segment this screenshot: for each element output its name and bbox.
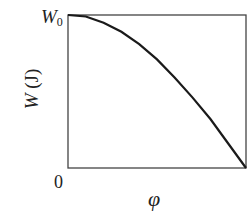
y-tick-w0: W0 [41, 6, 63, 30]
data-curve [68, 15, 246, 168]
x-tick-zero: 0 [54, 172, 63, 193]
plot-frame [68, 15, 246, 168]
y-axis-label: W (J) [21, 69, 43, 110]
chart-plot-area [0, 0, 247, 220]
x-axis-label: φ [148, 186, 160, 212]
